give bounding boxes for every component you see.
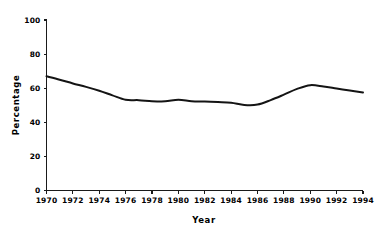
x-tick-label: 1984 xyxy=(220,196,242,205)
x-tick-label: 1978 xyxy=(141,196,163,205)
x-tick-label: 1970 xyxy=(36,196,58,205)
y-tick-label: 60 xyxy=(30,84,41,93)
y-tick-label: 80 xyxy=(30,50,41,59)
x-tick-label: 1986 xyxy=(247,196,269,205)
y-tick-label: 0 xyxy=(35,186,40,195)
chart-figure: 020406080100 197019721974197619781980198… xyxy=(0,0,381,240)
y-axis-title: Percentage xyxy=(11,75,21,136)
x-tick-label: 1972 xyxy=(62,196,84,205)
x-axis-title: Year xyxy=(191,215,216,225)
line-chart: 020406080100 197019721974197619781980198… xyxy=(0,0,381,240)
y-tick-label: 20 xyxy=(30,152,41,161)
y-tick-label: 100 xyxy=(24,16,40,25)
x-tick-label: 1990 xyxy=(299,196,321,205)
x-tick-label: 1994 xyxy=(352,196,374,205)
x-tick-label: 1982 xyxy=(194,196,216,205)
x-tick-label: 1992 xyxy=(326,196,348,205)
y-tick-label: 40 xyxy=(30,118,41,127)
x-tick-label: 1980 xyxy=(168,196,190,205)
x-tick-label: 1988 xyxy=(273,196,295,205)
x-tick-label: 1976 xyxy=(115,196,137,205)
x-tick-label: 1974 xyxy=(88,196,110,205)
